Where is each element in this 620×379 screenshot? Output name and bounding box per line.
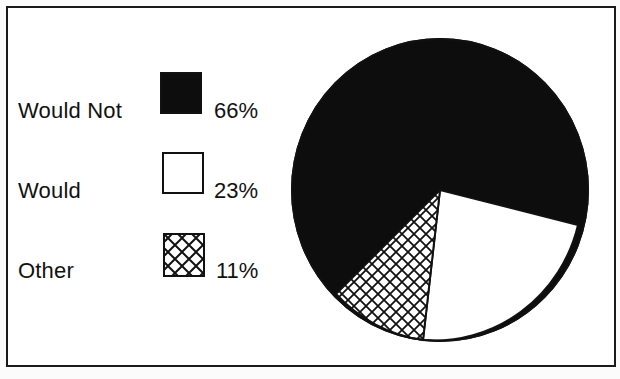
pie-chart: [0, 0, 620, 379]
